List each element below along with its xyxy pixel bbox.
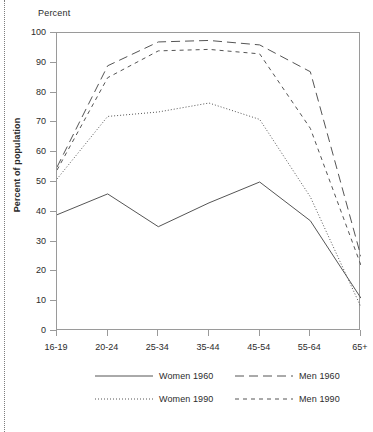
series-line [57, 182, 361, 298]
y-axis-tick-label: 10 [10, 295, 46, 305]
legend-row: Women 1990Men 1990 [95, 391, 365, 407]
series-line [57, 49, 361, 265]
y-axis-tick-label: 40 [10, 206, 46, 216]
legend-entry[interactable]: Men 1990 [235, 391, 340, 407]
y-axis-tick-label: 60 [10, 146, 46, 156]
legend-label: Women 1960 [159, 371, 213, 381]
x-axis-tick [107, 330, 108, 336]
x-axis-tick [157, 330, 158, 336]
legend-label: Men 1960 [299, 371, 340, 381]
legend-row: Women 1960Men 1960 [95, 368, 365, 384]
y-axis-tick-label: 80 [10, 87, 46, 97]
legend-line-swatch [95, 394, 153, 404]
x-axis-tick [360, 330, 361, 336]
series-line [57, 103, 361, 307]
legend-entry[interactable]: Women 1990 [95, 391, 213, 407]
line-chart-figure: Percent Percent of population 0102030405… [0, 0, 373, 432]
series-line [57, 40, 361, 256]
legend-line-swatch [95, 371, 153, 381]
y-axis-tick-label: 70 [10, 116, 46, 126]
y-axis-tick-label: 30 [10, 236, 46, 246]
plot-area [56, 32, 360, 330]
legend-entry[interactable]: Men 1960 [235, 368, 340, 384]
x-axis-tick [56, 330, 57, 336]
y-axis-tick-label: 100 [10, 27, 46, 37]
legend-line-swatch [235, 371, 293, 381]
y-axis-tick-label: 90 [10, 57, 46, 67]
y-axis-tick-label: 0 [10, 325, 46, 335]
legend-line-swatch [235, 394, 293, 404]
x-axis-tick [208, 330, 209, 336]
legend-label: Men 1990 [299, 394, 340, 404]
y-axis-tick-label: 50 [10, 176, 46, 186]
y-axis-tick-label: 20 [10, 265, 46, 275]
chart-unit-label: Percent [38, 8, 70, 18]
chart-legend: Women 1960Men 1960Women 1990Men 1990 [95, 368, 365, 418]
x-axis-tick-label: 65+ [330, 342, 373, 352]
x-axis-tick [259, 330, 260, 336]
legend-entry[interactable]: Women 1960 [95, 368, 213, 384]
series-lines [57, 33, 361, 331]
legend-label: Women 1990 [159, 394, 213, 404]
x-axis-tick [309, 330, 310, 336]
